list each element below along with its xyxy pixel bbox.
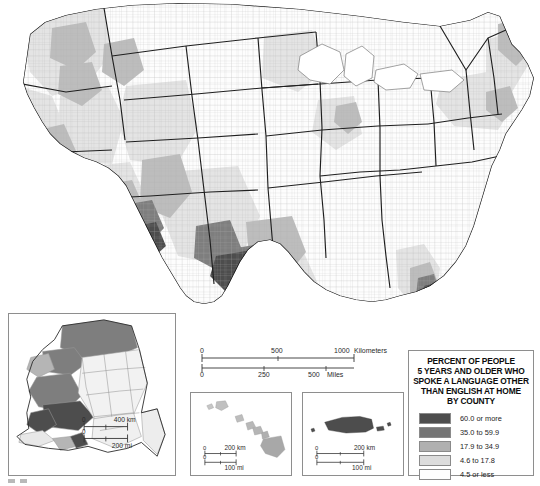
map-figure: 0 400 km 0 200 mi [0, 0, 540, 486]
main-km-tick-0: 0 [200, 347, 204, 354]
alaska-mi-label: 200 mi [112, 442, 133, 449]
puerto-rico-inset: 0 200 km 0 100 mi [302, 392, 404, 476]
hawaii-inset: 0 200 km 0 100 mi [190, 392, 292, 476]
legend-title: PERCENT OF PEOPLE 5 YEARS AND OLDER WHO … [413, 356, 529, 406]
alaska-inset: 0 400 km 0 200 mi [8, 313, 176, 476]
legend-row: 60.0 or more [413, 412, 529, 425]
alaska-km-label: 400 km [114, 416, 136, 423]
main-scale-bar-svg: 0 500 1000 Kilometers 0 250 500 Miles [196, 344, 376, 380]
legend-label: 4.6 to 17.8 [460, 455, 495, 466]
legend-title-line-2: 5 YEARS AND OLDER WHO [413, 366, 529, 376]
legend-row: 17.9 to 34.9 [413, 440, 529, 453]
alaska-inset-svg: 0 400 km 0 200 mi [9, 314, 175, 475]
legend-label: 60.0 or more [460, 413, 502, 424]
legend-label: 4.5 or less [460, 469, 494, 480]
artifact-mark [8, 479, 15, 483]
alaska-km-tick-0: 0 [82, 416, 86, 423]
legend-title-line-5: BY COUNTY [413, 396, 529, 406]
main-km-tick-1000: 1000 [334, 347, 350, 354]
legend-row: 4.5 or less [413, 468, 529, 481]
legend-swatch-icon [419, 413, 451, 424]
pr-mi-label: 100 mi [352, 464, 371, 471]
legend-title-line-1: PERCENT OF PEOPLE [413, 356, 529, 366]
alaska-mi-tick-0: 0 [82, 428, 86, 435]
legend-label: 17.9 to 34.9 [460, 441, 499, 452]
puerto-rico-inset-svg: 0 200 km 0 100 mi [303, 393, 403, 475]
bottom-edge-artifact [2, 477, 38, 486]
main-map-contiguous-us [0, 0, 540, 330]
hawaii-mi-label: 100 mi [224, 464, 243, 471]
legend-row: 35.0 to 59.9 [413, 426, 529, 439]
main-mi-tick-250: 250 [258, 371, 270, 378]
legend-swatch-icon [419, 427, 451, 438]
hawaii-km-label: 200 km [224, 444, 245, 451]
main-mi-tick-0: 0 [200, 371, 204, 378]
legend-row: 4.6 to 17.8 [413, 454, 529, 467]
main-mi-tick-500: 500 [308, 371, 320, 378]
legend-swatch-icon [419, 455, 451, 466]
county-choropleth-layer [0, 0, 540, 330]
main-km-unit: Kilometers [354, 347, 388, 354]
main-mi-unit: Miles [327, 371, 344, 378]
artifact-mark [20, 479, 27, 483]
hawaii-inset-svg: 0 200 km 0 100 mi [191, 393, 291, 475]
main-km-tick-500: 500 [271, 347, 283, 354]
main-scale-bar: 0 500 1000 Kilometers 0 250 500 Miles [196, 344, 376, 380]
main-map-svg [0, 0, 540, 330]
legend-swatch-icon [419, 469, 451, 480]
legend-title-line-4: THAN ENGLISH AT HOME [413, 386, 529, 396]
legend-swatch-icon [419, 441, 451, 452]
legend-class-list: 60.0 or more 35.0 to 59.9 17.9 to 34.9 4… [413, 412, 529, 481]
pr-km-label: 200 km [354, 444, 375, 451]
legend-label: 35.0 to 59.9 [460, 427, 499, 438]
legend-title-line-3: SPOKE A LANGUAGE OTHER [413, 376, 529, 386]
legend: PERCENT OF PEOPLE 5 YEARS AND OLDER WHO … [408, 350, 534, 476]
